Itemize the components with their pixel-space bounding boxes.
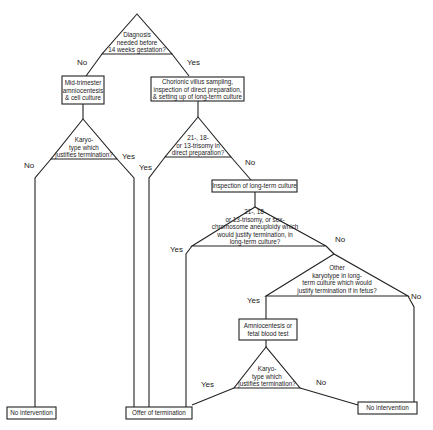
node-text-line: amniocentesis [62,87,104,95]
node-text-line: Chorionic villus sampling, [151,78,244,86]
edge-label-direct-no: No [245,158,255,167]
node-text-line: needed before [102,39,172,47]
edge-label-karyo-left-yes: Yes [122,152,135,161]
node-text-line: karyotype in long- [266,272,408,280]
node-text-line: justifies termination? [234,380,300,388]
decision-karyo-left: Karyo- type which justifies termination? [51,136,117,159]
edge-label-direct-yes: Yes [139,163,152,172]
node-text-line: chromosome aneuploidy which [192,223,318,231]
node-text-line: or 13-trisomy in [165,142,231,150]
node-text-line: inspection of direct preparation, [151,86,244,94]
node-text-line: or 13-trisomy, or sex- [192,216,318,224]
edge-label-karyo-bottom-no: No [316,378,326,387]
edge-label-diag-no: No [77,58,87,67]
node-text-line: justifies termination? [51,151,117,159]
node-text-line: Amniocentesis or [239,322,297,330]
node-text-line: justify termination if in fetus? [266,287,408,295]
decision-karyo-bottom: Karyo- type which justifies termination? [234,365,300,388]
node-text-line: type which [51,144,117,152]
node-text-line: Diagnosis [102,31,172,39]
outcome-offer-termination: Offer of termination [126,409,192,417]
edge-label-long-no: No [335,235,345,244]
node-text-line: Other [266,264,408,272]
decision-diagnosis: Diagnosis needed before 14 weeks gestati… [102,31,172,54]
node-text-line: long-term culture? [192,238,318,246]
node-text-line: type which [234,373,300,381]
box-longterm: Inspection of long-term culture [212,182,297,190]
edge-label-karyo-left-no: No [24,161,34,170]
node-text-line: would justify termination, in [192,231,318,239]
node-text-line: & cell culture [62,94,104,102]
edge-label-diag-yes: Yes [187,58,200,67]
node-text-line: Mid-trimester [62,79,104,87]
decision-direct: 21-, 18- or 13-trisomy in direct prepara… [165,134,231,157]
edge-diag-no [86,54,102,76]
node-text-line: fetal blood test [239,330,297,338]
outcome-no-intervention-right: No intervention [358,404,417,412]
edge-label-long-yes: Yes [170,245,183,254]
decision-trisomy-long: 21-, 18- or 13-trisomy, or sex- chromoso… [192,208,318,246]
node-text-line: term culture which would [266,279,408,287]
node-text-line: 14 weeks gestation? [102,46,172,54]
node-text-line: direct preparation? [165,149,231,157]
decision-other-karyo: Other karyotype in long- term culture wh… [266,264,408,294]
node-text-line: Karyo- [234,365,300,373]
edge-label-other-no: No [411,292,421,301]
node-text-line: & setting up of long-term culture [151,93,244,101]
edge-label-karyo-bottom-yes: Yes [201,380,214,389]
box-cvs: Chorionic villus sampling, inspection of… [151,78,244,101]
box-midtrimester: Mid-trimester amniocentesis & cell cultu… [62,79,104,102]
box-amnio-fbs: Amniocentesis or fetal blood test [239,322,297,337]
node-text-line: 21-, 18- [165,134,231,142]
node-text-line: 21-, 18- [192,208,318,216]
outcome-no-intervention-left: No intervention [7,409,56,417]
node-text-line: Karyo- [51,136,117,144]
edge-label-other-yes: Yes [247,296,260,305]
